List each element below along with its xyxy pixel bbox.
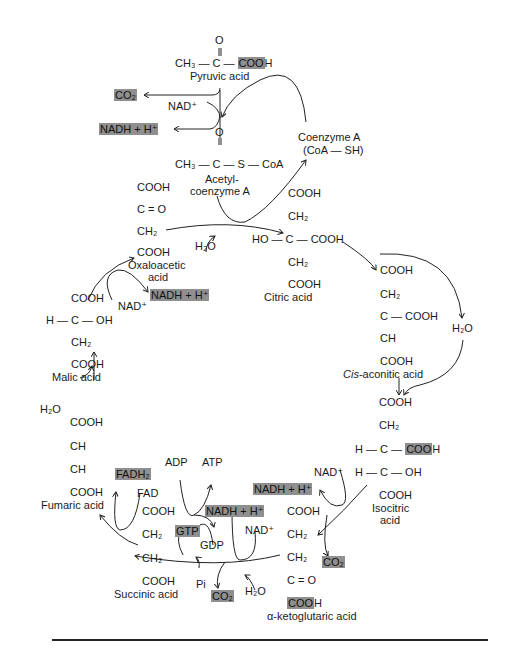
akg-carboxyl: COOH <box>287 597 322 609</box>
pyruvic-formula-right: H <box>265 57 273 69</box>
co2-badge-isocitrate: CO₂ <box>322 556 345 568</box>
oxaloacetic-line-3: COOH <box>137 246 170 258</box>
succinic-line-1: CH₂ <box>142 528 162 540</box>
acetyl-oxygen: O <box>215 126 224 138</box>
akg-line-2: CH₂ <box>287 551 307 563</box>
isocitric-line-0: COOH <box>379 396 412 408</box>
isocitric-line-2-left: H — C — <box>355 443 405 455</box>
oxaloacetic-line-0: COOH <box>137 181 170 193</box>
succinic-acid-label: Succinic acid <box>114 588 178 600</box>
akg-carboxyl-rest: H <box>314 597 322 609</box>
oxaloacetic-label-2: acid <box>148 271 168 283</box>
h2o-alpha-kg: H₂O <box>245 585 266 597</box>
fad-label: FAD <box>137 487 158 499</box>
acetyl-label-line1: Acetyl- <box>205 173 239 185</box>
gtp-badge: GTP <box>175 525 200 537</box>
h2o-aconitase: H₂O <box>452 322 473 334</box>
citric-line-2: HO — C — COOH <box>252 233 344 245</box>
oxaloacetic-line-2: CH₂ <box>137 225 157 237</box>
pyruvic-acid-label: Pyruvic acid <box>190 70 249 82</box>
citric-line-0: COOH <box>288 187 321 199</box>
nadh-badge-alpha-kg: NADH + H⁺ <box>205 505 264 517</box>
fadh2-badge: FADH₂ <box>115 468 151 480</box>
adp-label: ADP <box>165 456 188 468</box>
akg-carboxyl-highlight: COO <box>287 597 314 609</box>
isocitric-label-2: acid <box>380 514 400 526</box>
citric-line-4: COOH <box>288 278 321 290</box>
cis-aconitic-line-1: CH₂ <box>380 288 400 300</box>
isocitric-line-3: H — C — OH <box>355 466 422 478</box>
pathway-arrows <box>0 0 513 657</box>
succinic-line-2: CH₂ <box>142 552 162 564</box>
coenzyme-a-label: Coenzyme A <box>298 131 360 143</box>
isocitric-carboxyl-rest: H <box>432 443 440 455</box>
divider-rule <box>52 639 488 641</box>
malic-line-3: COOH <box>71 358 104 370</box>
fumaric-line-2: CH <box>70 463 86 475</box>
nadh-badge-isocitrate: NADH + H⁺ <box>253 483 312 495</box>
h2o-fumarase: H₂O <box>40 403 61 415</box>
pi-label: Pi <box>196 578 206 590</box>
atp-label: ATP <box>202 456 223 468</box>
alpha-ketoglutaric-label: α-ketoglutaric acid <box>267 610 357 622</box>
akg-line-0: COOH <box>287 505 320 517</box>
succinic-line-3: COOH <box>142 575 175 587</box>
cis-aconitic-label: Cis-aconitic acid <box>343 368 423 380</box>
cis-aconitic-line-4: COOH <box>380 355 413 367</box>
nad-pyruvate: NAD⁺ <box>168 100 197 112</box>
fumaric-line-0: COOH <box>70 416 103 428</box>
fumaric-line-1: CH <box>70 440 86 452</box>
oxaloacetic-label-1: Oxaloacetic <box>128 259 185 271</box>
citric-line-3: CH₂ <box>288 256 308 268</box>
isocitric-label-1: Isocitric <box>372 502 409 514</box>
malic-line-0: COOH <box>71 292 104 304</box>
nadh-badge-pyruvate: NADH + H⁺ <box>99 123 158 135</box>
malic-line-2: CH₂ <box>71 336 91 348</box>
h2o-citrate-synthase: H₂O <box>195 240 216 252</box>
malic-line-1: H — C — OH <box>46 314 113 326</box>
acetyl-label-line2: coenzyme A <box>190 185 250 197</box>
oxaloacetic-line-1: C = O <box>137 203 166 215</box>
cis-aconitic-line-0: COOH <box>380 264 413 276</box>
nad-isocitrate: NAD⁺ <box>314 466 343 478</box>
acetyl-coa-formula: CH₃ — C — S — CoA <box>175 158 283 170</box>
akg-line-1: CH₂ <box>287 528 307 540</box>
isocitric-line-1: CH₂ <box>379 419 399 431</box>
cis-prefix: Cis <box>343 368 359 380</box>
fumaric-acid-label: Fumaric acid <box>41 499 104 511</box>
pyruvic-formula-left: CH₃ — C — <box>175 57 238 69</box>
cis-aconitic-rest: -aconitic acid <box>359 368 423 380</box>
isocitric-line-2: H — C — COOH <box>355 443 440 455</box>
akg-line-3: C = O <box>287 574 316 586</box>
coenzyme-a-formula: (CoA — SH) <box>303 144 364 156</box>
cis-aconitic-line-3: CH <box>380 332 396 344</box>
gdp-label: GDP <box>200 539 224 551</box>
pyruvic-formula: CH₃ — C — COOH <box>175 57 273 69</box>
citric-acid-label: Citric acid <box>264 291 312 303</box>
co2-badge-alpha-kg: CO₂ <box>211 590 234 602</box>
nadh-badge-malate: NADH + H⁺ <box>150 289 209 301</box>
pyruvic-oxygen: O <box>215 34 224 46</box>
fumaric-line-3: COOH <box>70 486 103 498</box>
citric-line-1: CH₂ <box>288 210 308 222</box>
nad-malate: NAD⁺ <box>118 300 147 312</box>
nad-alpha-kg: NAD⁺ <box>245 524 274 536</box>
isocitric-line-4: COOH <box>379 489 412 501</box>
cis-aconitic-line-2: C — COOH <box>380 310 438 322</box>
succinic-line-0: COOH <box>142 505 175 517</box>
pyruvic-carboxyl-highlight: COO <box>238 57 265 69</box>
co2-badge-pyruvate: CO₂ <box>114 89 137 101</box>
isocitric-carboxyl-highlight: COO <box>405 443 432 455</box>
malic-acid-label: Malic acid <box>52 371 101 383</box>
